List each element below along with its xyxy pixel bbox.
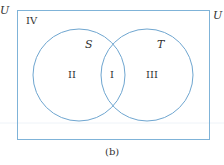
venn-diagram-svg: U U IV S T II I III (b) bbox=[0, 0, 224, 165]
region-i-label: I bbox=[110, 69, 114, 80]
set-s-label: S bbox=[85, 38, 93, 51]
universe-label-left: U bbox=[0, 4, 10, 17]
region-iii-label: III bbox=[146, 69, 158, 80]
venn-diagram-figure: U U IV S T II I III (b) bbox=[0, 0, 224, 165]
region-ii-label: II bbox=[68, 69, 76, 80]
figure-caption: (b) bbox=[105, 146, 119, 157]
region-iv-label: IV bbox=[26, 15, 38, 26]
set-t-label: T bbox=[157, 38, 166, 51]
universe-label: U bbox=[213, 9, 223, 22]
